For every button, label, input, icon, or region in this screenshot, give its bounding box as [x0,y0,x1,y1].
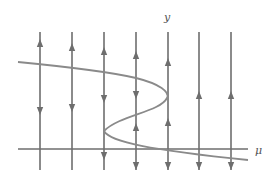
arrow-up-icon [69,43,75,51]
arrow-down-icon [69,104,75,112]
arrow-down-icon [133,162,139,170]
equilibrium-curve [18,62,248,160]
arrow-down-icon [196,162,202,170]
bifurcation-diagram: y μ [0,0,276,189]
arrow-up-icon [165,58,171,66]
arrow-down-icon [228,162,234,170]
arrow-up-icon [133,123,139,131]
arrow-up-icon [196,91,202,99]
diagram-canvas [0,0,276,189]
arrow-down-icon [101,152,107,160]
arrow-up-icon [133,51,139,59]
arrow-up-icon [37,39,43,47]
arrow-up-icon [165,118,171,126]
arrow-down-icon [165,162,171,170]
y-axis-label: y [164,12,170,23]
arrow-down-icon [133,91,139,99]
mu-axis-label: μ [255,145,262,156]
arrow-up-icon [228,91,234,99]
arrow-up-icon [101,47,107,55]
arrow-down-icon [101,95,107,103]
arrow-down-icon [37,107,43,115]
